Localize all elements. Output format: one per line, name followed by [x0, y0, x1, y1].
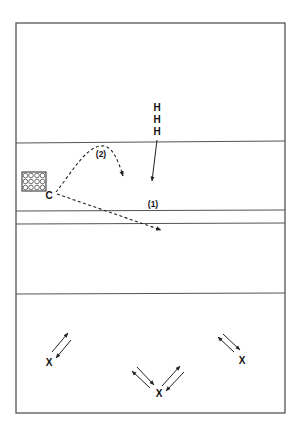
attack-line-far: [16, 141, 285, 143]
defender-right: X: [239, 355, 246, 366]
defender-center-left-arrows-icon: [132, 367, 154, 388]
defender-left-movement-arrows-icon: [52, 333, 71, 358]
defender-right-movement-arrows-icon: [218, 334, 240, 352]
attack-line-near: [16, 293, 285, 294]
ball-2-label: (2): [96, 149, 107, 159]
ball-cart-icon: [22, 172, 46, 191]
defender-center: X: [156, 388, 163, 399]
defender-center-right-arrows-icon: [162, 366, 184, 391]
hitter-1: H: [153, 102, 160, 113]
net-line-top: [16, 210, 285, 211]
net-line-bottom: [16, 223, 285, 224]
hitters-group: H H H: [153, 102, 160, 137]
ball-2-trajectory-arrow-icon: [56, 146, 123, 192]
ball-1-trajectory-arrow-icon: [57, 194, 161, 230]
hitter-2: H: [153, 114, 160, 125]
hitter-approach-arrow-icon: [152, 140, 157, 181]
defender-left: X: [46, 357, 53, 368]
hitter-3: H: [153, 126, 160, 137]
drill-diagram: H H H C (2) (1) X X X: [0, 0, 303, 428]
ball-1-label: (1): [148, 199, 159, 209]
coach-marker: C: [45, 190, 52, 201]
